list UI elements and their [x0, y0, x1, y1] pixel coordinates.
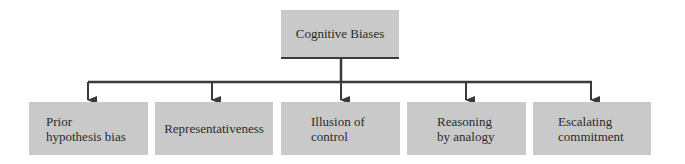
root-label: Cognitive Biases: [296, 26, 384, 41]
child-label-line1: Representativeness: [164, 121, 264, 136]
child-label-line1: Reasoning: [437, 114, 494, 129]
cognitive-biases-diagram: Cognitive Biases Prior hypothesis bias R…: [0, 0, 685, 164]
root-node-cognitive-biases: Cognitive Biases: [281, 10, 399, 59]
child-label-line1: Illusion of: [311, 114, 365, 129]
child-node-prior-hypothesis-bias: Prior hypothesis bias: [29, 102, 148, 155]
child-label-line2: by analogy: [437, 129, 494, 144]
child-label-line1: Prior: [46, 114, 126, 129]
child-node-reasoning-by-analogy: Reasoning by analogy: [407, 102, 526, 155]
child-node-illusion-of-control: Illusion of control: [281, 102, 400, 155]
child-label-line2: hypothesis bias: [46, 129, 126, 144]
child-label-line2: commitment: [558, 129, 624, 144]
child-label-line2: control: [311, 129, 365, 144]
child-label-line1: Escalating: [558, 114, 624, 129]
child-node-representativeness: Representativeness: [155, 102, 273, 155]
child-node-escalating-commitment: Escalating commitment: [533, 102, 651, 155]
